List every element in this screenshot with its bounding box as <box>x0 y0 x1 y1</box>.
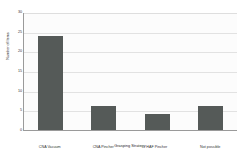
bar <box>198 106 223 130</box>
x-tick-slot: CNA Pincher <box>77 134 131 152</box>
x-axis-tick-labels: CNA VacuumCNA PincherHAF PincherNot poss… <box>23 134 237 152</box>
y-tick-label: 25 <box>8 31 22 35</box>
x-axis-title: Grasping Strategy <box>23 144 237 148</box>
x-tick-slot: HAF Pincher <box>130 134 184 152</box>
bar-chart-figure: Number of Items 051015202530 CNA VacuumC… <box>0 0 246 165</box>
y-tick-label: 0 <box>8 129 22 133</box>
y-tick-label: 10 <box>8 90 22 94</box>
bar-slot <box>131 13 184 130</box>
bar-slot <box>77 13 130 130</box>
y-tick-label: 15 <box>8 70 22 74</box>
x-tick-slot: CNA Vacuum <box>23 134 77 152</box>
y-tick-label: 20 <box>8 50 22 54</box>
bar <box>145 114 170 130</box>
bar-slot <box>24 13 77 130</box>
y-tick-label: 5 <box>8 109 22 113</box>
plot-area <box>23 13 237 131</box>
y-tick-label: 30 <box>8 11 22 15</box>
y-axis-tick-labels: 051015202530 <box>8 13 22 131</box>
bar <box>38 36 63 130</box>
bar <box>91 106 116 130</box>
bars-layer <box>24 13 237 130</box>
x-tick-slot: Not possible <box>184 134 238 152</box>
bar-slot <box>184 13 237 130</box>
